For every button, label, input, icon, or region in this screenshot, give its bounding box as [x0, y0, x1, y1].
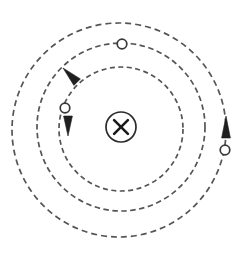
particle-top-circle: [117, 39, 127, 49]
diagram-canvas: [0, 0, 247, 255]
particle-left-circle: [60, 103, 70, 113]
magnetic-field-into-page-symbol: [106, 112, 136, 142]
physics-diagram-figure: [0, 0, 247, 255]
particle-right-circle: [220, 145, 230, 155]
